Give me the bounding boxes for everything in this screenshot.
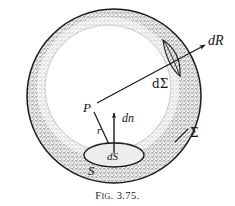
caption-small-caps: IG bbox=[102, 192, 111, 201]
figure-drawing: P r dn dS S dΣ dR Σ bbox=[0, 0, 235, 206]
label-normal-dn: dn bbox=[122, 111, 134, 125]
label-radius-r: r bbox=[97, 124, 102, 136]
label-d-sigma: dΣ bbox=[152, 77, 168, 91]
label-surface-s: S bbox=[88, 163, 95, 178]
figure-caption: FIG. 3.75. bbox=[0, 185, 235, 203]
label-element-ds: dS bbox=[107, 150, 119, 162]
caption-number: 3.75. bbox=[114, 190, 140, 201]
figure-3-75: P r dn dS S dΣ dR Σ FIG. 3.75. bbox=[0, 0, 235, 206]
label-d-r: dR bbox=[208, 33, 224, 48]
label-point-p: P bbox=[82, 100, 91, 115]
label-sigma: Σ bbox=[190, 126, 198, 140]
